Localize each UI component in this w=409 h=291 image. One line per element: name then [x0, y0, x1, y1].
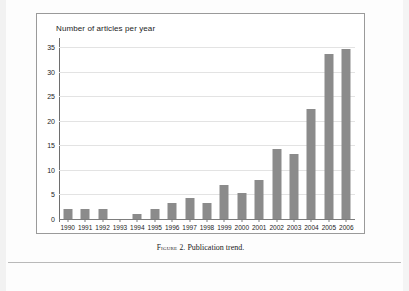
page-edge-right	[403, 0, 409, 291]
x-axis-tick-mark	[259, 219, 260, 222]
y-axis-tick-label: 0	[51, 216, 55, 223]
x-axis-tick-label: 2000	[235, 224, 249, 231]
bar-group-1996: 1996	[163, 47, 180, 219]
x-axis-tick-mark	[294, 219, 295, 222]
y-axis-tick-label: 35	[47, 44, 55, 51]
x-axis-tick-label: 1999	[217, 224, 231, 231]
y-axis-tick-label: 30	[47, 68, 55, 75]
bar	[63, 209, 72, 219]
bar-group-2004: 2004	[303, 47, 320, 219]
figure-caption: Figure 2. Publication trend.	[36, 243, 365, 252]
y-axis-tick-label: 20	[47, 117, 55, 124]
x-axis-tick-label: 1998	[200, 224, 214, 231]
y-axis-tick-label: 10	[47, 166, 55, 173]
figure-caption-text: Publication trend.	[187, 243, 244, 252]
figure-caption-label: Figure 2.	[157, 243, 186, 252]
x-axis-tick-mark	[311, 219, 312, 222]
x-axis-tick-mark	[241, 219, 242, 222]
bar	[202, 203, 211, 219]
bar	[255, 180, 264, 219]
bar-group-2000: 2000	[233, 47, 250, 219]
bar-series: 1990199119921993199419951996199719981999…	[59, 47, 355, 219]
bar-group-2002: 2002	[268, 47, 285, 219]
bar	[168, 203, 177, 219]
bar-group-1998: 1998	[198, 47, 215, 219]
x-axis-tick-label: 2004	[304, 224, 318, 231]
x-axis-tick-label: 1991	[78, 224, 92, 231]
bar	[98, 209, 107, 219]
bar-group-1991: 1991	[76, 47, 93, 219]
figure-frame: Number of articles per year 051015202530…	[36, 13, 365, 234]
chart-title: Number of articles per year	[56, 24, 155, 33]
y-axis-tick-label: 5	[51, 191, 55, 198]
bar	[150, 209, 159, 219]
x-axis-tick-mark	[67, 219, 68, 222]
x-axis-tick-label: 1994	[130, 224, 144, 231]
x-axis-tick-label: 2001	[252, 224, 266, 231]
x-axis-tick-mark	[172, 219, 173, 222]
bar-group-1995: 1995	[146, 47, 163, 219]
bar	[237, 193, 246, 219]
bar-group-1990: 1990	[59, 47, 76, 219]
bar	[290, 154, 299, 219]
x-axis-tick-mark	[189, 219, 190, 222]
x-axis-tick-label: 1990	[60, 224, 74, 231]
page-bottom-rule	[8, 262, 401, 263]
x-axis-tick-mark	[224, 219, 225, 222]
bar	[342, 49, 351, 219]
bar-group-2001: 2001	[251, 47, 268, 219]
x-axis-tick-mark	[276, 219, 277, 222]
bar	[324, 54, 333, 219]
x-axis-tick-label: 2005	[322, 224, 336, 231]
plot-area: 05101520253035 1990199119921993199419951…	[59, 47, 355, 219]
x-axis-tick-mark	[206, 219, 207, 222]
bar-group-1994: 1994	[129, 47, 146, 219]
page-edge-left	[0, 0, 6, 291]
x-axis-tick-label: 1992	[95, 224, 109, 231]
bar-group-1999: 1999	[216, 47, 233, 219]
x-axis-tick-label: 1997	[182, 224, 196, 231]
bar-group-1992: 1992	[94, 47, 111, 219]
x-axis-tick-label: 1993	[113, 224, 127, 231]
bar-group-1993: 1993	[111, 47, 128, 219]
x-axis-tick-label: 2002	[269, 224, 283, 231]
x-axis-tick-label: 1995	[148, 224, 162, 231]
x-axis-tick-mark	[346, 219, 347, 222]
x-axis-tick-mark	[328, 219, 329, 222]
x-axis-tick-mark	[102, 219, 103, 222]
bar	[185, 198, 194, 219]
y-axis-tick-label: 15	[47, 142, 55, 149]
x-axis-tick-label: 2006	[339, 224, 353, 231]
bar-group-2006: 2006	[338, 47, 355, 219]
bar-group-1997: 1997	[181, 47, 198, 219]
x-axis-tick-mark	[119, 219, 120, 222]
bar	[307, 109, 316, 219]
bar	[220, 185, 229, 219]
x-axis-tick-label: 1996	[165, 224, 179, 231]
x-axis-tick-mark	[85, 219, 86, 222]
x-axis-tick-mark	[137, 219, 138, 222]
bar-group-2005: 2005	[320, 47, 337, 219]
bar	[81, 209, 90, 219]
x-axis-tick-mark	[154, 219, 155, 222]
scanned-page: Number of articles per year 051015202530…	[0, 0, 409, 291]
bar	[272, 149, 281, 219]
y-axis-tick-label: 25	[47, 93, 55, 100]
x-axis-tick-label: 2003	[287, 224, 301, 231]
bar-group-2003: 2003	[285, 47, 302, 219]
